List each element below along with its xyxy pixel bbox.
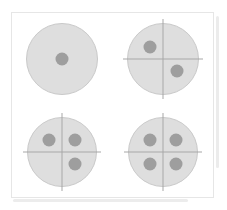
figure-root [0,0,227,210]
dot-lower-right [170,65,183,78]
circle-cell-top-right [113,12,215,105]
dot-upper-left [143,40,156,53]
crosshair-horizontal-line [124,151,202,152]
circle-cell-bottom-right [113,105,215,198]
dot-lower-right [170,157,183,170]
fold-line-bottom [13,199,188,202]
dot-upper-right [68,133,81,146]
circle-cell-bottom-left [11,105,113,198]
fold-line-right [216,16,219,168]
crosshair-horizontal-line [23,151,101,152]
crosshair-horizontal-line [123,58,203,59]
circle-grid [11,12,214,198]
dot-upper-left [42,133,55,146]
dot-upper-right [170,133,183,146]
dot-lower-left [144,157,157,170]
disc-top-left [26,23,98,95]
dot-center [55,52,68,65]
dot-lower-right [68,157,81,170]
dot-upper-left [144,133,157,146]
circle-cell-top-left [11,12,113,105]
